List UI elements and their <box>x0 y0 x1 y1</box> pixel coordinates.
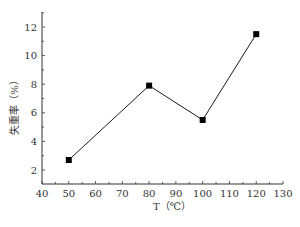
y-axis-label: 失重率（%） <box>8 75 20 135</box>
square-marker-icon <box>66 157 72 163</box>
x-tick-label: 110 <box>220 188 239 199</box>
x-tick-label: 120 <box>247 188 266 199</box>
x-tick-label: 100 <box>193 188 212 199</box>
y-tick-label: 6 <box>31 107 37 118</box>
x-tick-label: 70 <box>116 188 129 199</box>
x-tick-label: 90 <box>170 188 183 199</box>
x-tick-label: 50 <box>62 188 75 199</box>
line-chart: 40506070809010011012013024681012 T（℃） 失重… <box>0 0 300 227</box>
y-tick-label: 12 <box>24 22 37 33</box>
x-tick-label: 40 <box>36 188 49 199</box>
x-tick-label: 60 <box>89 188 102 199</box>
series-line <box>69 34 256 160</box>
square-marker-icon <box>253 31 259 37</box>
y-tick-label: 2 <box>31 165 37 176</box>
data-series <box>66 31 259 163</box>
x-tick-label: 80 <box>143 188 156 199</box>
x-axis-label: T（℃） <box>153 201 191 212</box>
y-tick-label: 4 <box>31 136 37 147</box>
x-tick-label: 130 <box>273 188 292 199</box>
square-marker-icon <box>146 83 152 89</box>
y-tick-label: 10 <box>24 50 37 61</box>
axes <box>42 12 283 184</box>
square-marker-icon <box>200 117 206 123</box>
y-tick-label: 8 <box>31 79 37 90</box>
